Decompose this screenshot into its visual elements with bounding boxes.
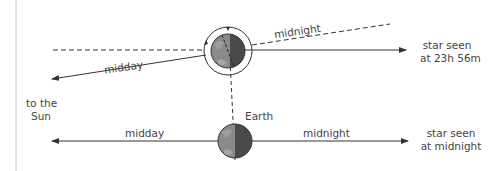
bottom-midnight-label: midnight xyxy=(303,127,350,140)
earth-bottom-icon xyxy=(212,120,260,165)
top-star-label-line2: at 23h 56m xyxy=(420,52,474,65)
bottom-star-label: star seen at midnight xyxy=(420,127,482,153)
bottom-midday-label: midday xyxy=(125,127,164,140)
bottom-star-label-line2: at midnight xyxy=(420,140,482,153)
bottom-star-label-line1: star seen xyxy=(420,127,482,140)
top-star-label-line1: star seen xyxy=(420,39,474,52)
sun-label-line2: Sun xyxy=(26,110,56,123)
rotation-arrow-icon xyxy=(204,40,208,45)
sun-label-line1: to the xyxy=(26,97,56,110)
earth-top-icon xyxy=(204,27,255,75)
top-star-label: star seen at 23h 56m xyxy=(420,39,474,65)
earth-label: Earth xyxy=(245,110,273,123)
sun-label: to the Sun xyxy=(26,97,56,123)
sidereal-day-diagram: midday midnight star seen at 23h 56m to … xyxy=(0,0,498,171)
